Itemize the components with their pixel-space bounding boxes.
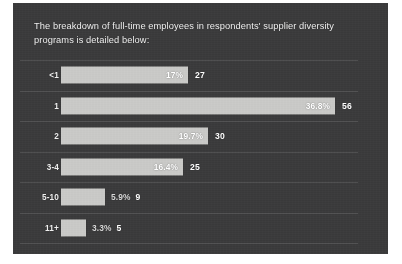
bar-percent-label: 5.9% [111,192,131,202]
bar-row-trailing [13,243,388,254]
bar-percent-label: 17% [166,70,183,80]
gridline [20,182,358,183]
bar-category-label: 1 [13,101,59,110]
bar-category-label: <1 [13,71,59,80]
bar-category-label: 3-4 [13,162,59,171]
bar-chart-plot-area: <117%27136.8%56219.7%303-416.4%255-105.9… [13,60,388,250]
gridline [20,152,358,153]
bar-count-label: 27 [195,70,205,80]
bar-row: <117%27 [13,60,388,91]
bar-category-label: 11+ [13,223,59,232]
bar-row: 136.8%56 [13,91,388,122]
gridline [20,213,358,214]
bar-row: 5-105.9%9 [13,182,388,213]
bar-percent-label: 19.7% [179,131,203,141]
chart-headline: The breakdown of full-time employees in … [34,19,370,47]
bar-count-label: 9 [136,192,141,202]
bar-category-label: 5-10 [13,193,59,202]
bar-count-label: 56 [342,101,352,111]
bar[interactable] [61,219,86,236]
bar-category-label: 2 [13,132,59,141]
bar-percent-label: 36.8% [306,101,330,111]
gridline [20,243,358,244]
bar-count-label: 30 [215,131,225,141]
bar-percent-label: 16.4% [154,162,178,172]
bar[interactable] [61,97,335,114]
bar-count-label: 25 [190,162,200,172]
bar-percent-label: 3.3% [92,223,112,233]
gridline [20,60,358,61]
bar-row: 11+3.3%5 [13,213,388,244]
gridline [20,121,358,122]
chart-card: The breakdown of full-time employees in … [13,3,388,254]
bar-row: 3-416.4%25 [13,152,388,183]
gridline [20,91,358,92]
bar-count-label: 5 [117,223,122,233]
bar-row: 219.7%30 [13,121,388,152]
bar[interactable] [61,189,105,206]
